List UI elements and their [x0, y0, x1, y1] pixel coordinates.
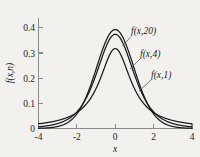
y-axis-title: f(x,n) — [5, 63, 16, 83]
x-axis-tick-labels: -4 -2 0 2 4 — [35, 132, 195, 142]
x-tick-label-3: 2 — [151, 132, 156, 142]
x-tick-label-0: -4 — [35, 132, 43, 142]
figure-container: 0.4 0.3 0.2 0.1 0 -4 -2 0 2 4 x f(x,n) — [0, 0, 200, 157]
y-tick-label-1: 0.1 — [23, 99, 35, 109]
x-tick-label-4: 4 — [190, 132, 195, 142]
curve-label-f-x-20: f(x,20) — [131, 26, 156, 37]
x-tick-label-2: 0 — [113, 132, 118, 142]
x-tick-label-1: -2 — [73, 132, 81, 142]
curve-label-f-x-4: f(x,4) — [140, 49, 160, 60]
curve-f-x-1 — [39, 49, 193, 124]
x-axis-ticks — [39, 124, 193, 129]
t-distribution-plot: 0.4 0.3 0.2 0.1 0 -4 -2 0 2 4 x f(x,n) — [0, 0, 200, 157]
y-axis-tick-labels: 0.4 0.3 0.2 0.1 0 — [23, 23, 35, 134]
y-axis-ticks — [39, 28, 44, 129]
y-tick-label-2: 0.2 — [23, 74, 35, 84]
x-axis-title: x — [112, 144, 118, 154]
leader-line-f-x-1 — [139, 80, 151, 91]
y-tick-label-4: 0.4 — [23, 23, 35, 33]
y-tick-label-3: 0.3 — [23, 49, 35, 59]
annotation-leaders — [123, 37, 152, 92]
curve-label-f-x-1: f(x,1) — [151, 70, 171, 81]
annotation-labels: f(x,20) f(x,4) f(x,1) — [131, 26, 171, 81]
